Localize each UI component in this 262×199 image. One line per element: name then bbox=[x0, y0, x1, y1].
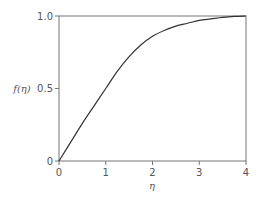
y-tick-label: 0.5 bbox=[37, 83, 53, 94]
x-tick-label: 3 bbox=[196, 167, 202, 178]
x-axis-label: η bbox=[149, 180, 155, 191]
x-tick-label: 4 bbox=[243, 167, 249, 178]
x-tick-label: 1 bbox=[103, 167, 109, 178]
x-axis-ticks: 01234 bbox=[56, 161, 249, 178]
plot-frame bbox=[59, 16, 246, 161]
y-tick-label: 1.0 bbox=[37, 11, 53, 22]
x-tick-label: 0 bbox=[56, 167, 62, 178]
chart: 01234 00.51.0 η f(η) bbox=[0, 0, 262, 199]
y-axis-ticks: 00.51.0 bbox=[37, 11, 59, 167]
y-axis-label: f(η) bbox=[12, 83, 31, 94]
y-tick-label: 0 bbox=[47, 156, 53, 167]
data-curve bbox=[59, 16, 246, 161]
x-tick-label: 2 bbox=[149, 167, 155, 178]
